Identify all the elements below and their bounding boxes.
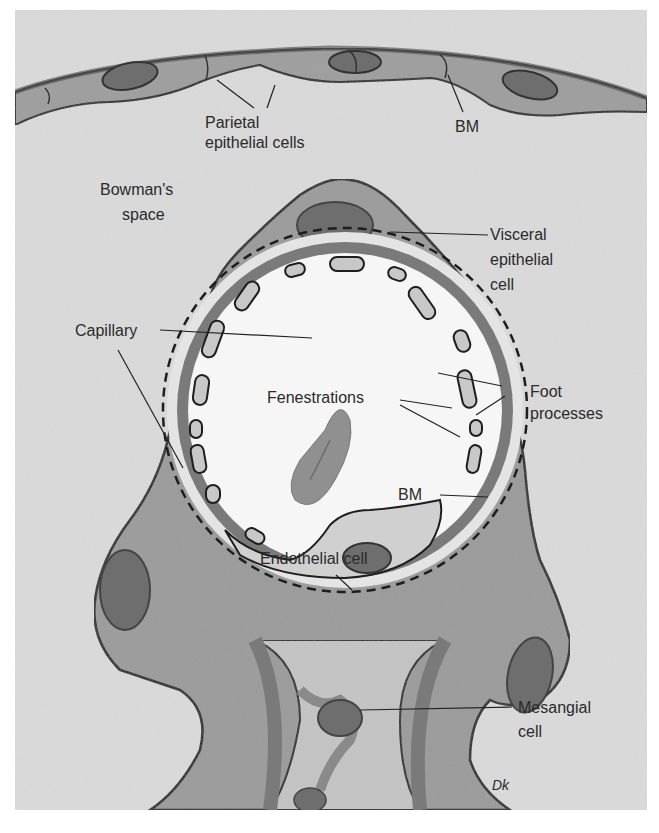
podocyte-nucleus-left (100, 550, 150, 630)
label-mesangial-2: cell (518, 723, 542, 740)
label-visceral-2: epithelial (490, 251, 553, 268)
label-parietal-1: Parietal (205, 114, 259, 131)
parietal-nucleus-2 (329, 51, 381, 73)
label-fenestrations: Fenestrations (267, 389, 364, 406)
label-capillary: Capillary (75, 322, 137, 339)
mesangial-nucleus (318, 700, 362, 736)
label-foot-1: Foot (530, 383, 563, 400)
artist-signature: Dk (492, 777, 510, 793)
glomerulus-diagram: Dk Parietal epithelial cells BM Bowman's… (0, 0, 659, 833)
label-bowmans-2: space (122, 206, 165, 223)
label-endothelial: Endothelial cell (260, 550, 368, 567)
label-visceral-1: Visceral (490, 226, 547, 243)
label-visceral-3: cell (490, 276, 514, 293)
label-foot-2: processes (530, 405, 603, 422)
label-bowmans-1: Bowman's (100, 181, 173, 198)
capillary (177, 242, 513, 578)
label-bm-top: BM (455, 118, 479, 135)
label-parietal-2: epithelial cells (205, 134, 305, 151)
label-bm-inner: BM (398, 486, 422, 503)
label-mesangial-1: Mesangial (518, 699, 591, 716)
